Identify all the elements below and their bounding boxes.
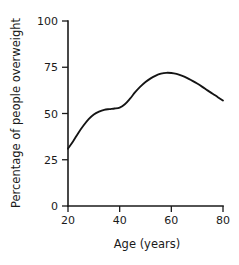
x-tick-label-60: 60 <box>164 214 178 227</box>
y-tick-label-50: 50 <box>44 108 58 121</box>
y-axis-title: Percentage of people overweight <box>9 17 23 208</box>
x-tick-label-80: 80 <box>216 214 230 227</box>
line-chart: 100 75 50 25 0 20 40 60 80 Age (years) P… <box>0 0 239 265</box>
x-tick-label-20: 20 <box>61 214 75 227</box>
y-tick-label-25: 25 <box>44 154 58 167</box>
data-series-line <box>68 73 223 149</box>
x-axis-title: Age (years) <box>114 237 181 251</box>
y-tick-label-0: 0 <box>51 200 58 213</box>
y-tick-label-75: 75 <box>44 61 58 74</box>
chart-figure: 100 75 50 25 0 20 40 60 80 Age (years) P… <box>0 0 239 265</box>
y-tick-label-100: 100 <box>37 15 58 28</box>
x-tick-label-40: 40 <box>113 214 127 227</box>
